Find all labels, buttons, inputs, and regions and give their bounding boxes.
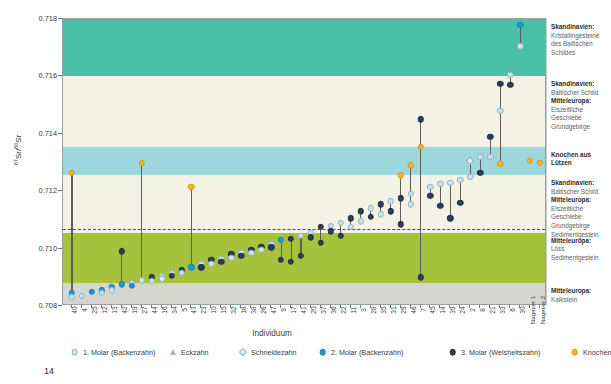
data-point	[497, 80, 503, 86]
data-point	[447, 215, 453, 221]
data-point	[178, 270, 184, 276]
y-tick-label: 0.718	[39, 14, 58, 23]
legend-divider	[546, 18, 547, 305]
connector-stem	[121, 251, 122, 284]
data-point	[298, 253, 304, 259]
legend-label: Schneidezahn	[251, 348, 297, 357]
x-axis-title: Individuum	[252, 329, 292, 338]
x-tick-label: 46	[410, 306, 417, 313]
band-legend-head2: Mitteleuropa:	[551, 196, 604, 205]
connector-stem	[191, 187, 192, 267]
data-point	[537, 159, 543, 165]
data-point	[238, 253, 244, 259]
data-point	[417, 274, 423, 280]
data-point	[487, 133, 493, 139]
x-tick-label: 40	[71, 306, 78, 313]
legend-item[interactable]: Schneidezahn	[238, 345, 297, 359]
data-point	[407, 162, 413, 168]
x-tick-label: 29	[400, 306, 407, 313]
data-point	[258, 247, 264, 253]
data-point	[79, 293, 85, 299]
connector-stem	[71, 173, 72, 298]
x-tick-label: 10	[210, 306, 217, 313]
data-point	[268, 244, 274, 250]
x-tick-label: 39	[449, 306, 456, 313]
data-point	[99, 290, 105, 296]
x-tick-label: Nagetier 2	[539, 296, 546, 325]
connector-stem	[450, 183, 451, 219]
x-tick-label: 45	[429, 306, 436, 313]
connector-stem	[500, 84, 501, 164]
legend-marker-circle-dark-icon	[448, 348, 457, 357]
x-tick-label: 44	[151, 306, 158, 313]
x-tick-label: 15	[220, 306, 227, 313]
band-legend-item: Mitteleuropa:Löss Sedimentgestein	[546, 237, 604, 263]
x-tick-label: Nagetier 1	[529, 296, 536, 325]
data-point	[358, 218, 364, 224]
band-legend-body: Löss Sedimentgestein	[551, 245, 604, 262]
band-legend-head: Knochen aus Lützen	[551, 151, 604, 168]
x-tick-label: 37	[320, 306, 327, 313]
x-tick-label: 8	[479, 308, 486, 312]
x-tick-label: 27	[141, 306, 148, 313]
legend-item[interactable]: 2. Molar (Backenzahn)	[318, 345, 403, 359]
x-tick-label: 11	[350, 307, 357, 314]
connector-stem	[410, 165, 411, 204]
y-tick-label: 0.708	[39, 301, 58, 310]
data-point	[477, 169, 483, 175]
x-tick-label: 17	[290, 306, 297, 313]
data-point	[69, 169, 75, 175]
band-legend-body: Baltischer Schild	[551, 188, 604, 197]
data-point	[348, 215, 354, 221]
band-legend-item: Mitteleuropa:Kalkstein	[546, 287, 604, 304]
x-tick-label: 33	[499, 306, 506, 313]
y-tick-label: 0.716	[39, 71, 58, 80]
band-legend-head: Mitteleuropa:	[551, 237, 604, 246]
band-legend-body: Kalkstein	[551, 296, 604, 305]
data-point	[119, 281, 125, 287]
legend-label: 2. Molar (Backenzahn)	[331, 348, 403, 357]
x-tick-label: 31	[390, 306, 397, 313]
x-tick-label: 43	[190, 306, 197, 313]
data-point	[477, 154, 483, 160]
band-legend-head: Skandinavien:	[551, 23, 604, 32]
x-tick-label: 13	[111, 306, 118, 313]
data-point	[348, 224, 354, 230]
series-legend: 1. Molar (Backenzahn)EckzahnSchneidezahn…	[70, 345, 590, 361]
legend-item[interactable]: Knochen	[570, 345, 611, 359]
data-point	[497, 161, 503, 167]
x-tick-label: 26	[260, 306, 267, 313]
x-tick-label: 19	[131, 306, 138, 313]
x-tick-label: 23	[200, 306, 207, 313]
x-tick-label: 9	[280, 308, 287, 312]
x-tick-label: 2	[469, 308, 476, 312]
data-point	[129, 283, 135, 289]
data-point	[318, 240, 324, 246]
data-point	[168, 273, 174, 279]
band-legend-item: Skandinavien:Kristallingesteine des Balt…	[546, 23, 604, 57]
y-tick-label: 0.710	[39, 243, 58, 252]
legend-marker-triangle-icon	[168, 348, 177, 357]
legend-item[interactable]: 3. Molar (Weisheitszahn)	[448, 345, 540, 359]
data-point	[368, 205, 374, 211]
band-legend-head: Skandinavien:	[551, 80, 604, 89]
legend-item[interactable]: 1. Molar (Backenzahn)	[70, 345, 155, 359]
data-point	[208, 260, 214, 266]
data-point	[517, 43, 523, 49]
data-point	[507, 82, 513, 88]
x-tick-label: 35	[380, 306, 387, 313]
data-point	[417, 116, 423, 122]
band-legend-item: Skandinavien:Baltischer SchildMitteleuro…	[546, 80, 604, 131]
data-point	[507, 72, 513, 78]
data-point	[397, 172, 403, 178]
data-point	[437, 181, 443, 187]
legend-label: 1. Molar (Backenzahn)	[83, 348, 155, 357]
band-legend: Skandinavien:Kristallingesteine des Balt…	[546, 18, 604, 305]
band-legend-head: Skandinavien:	[551, 179, 604, 188]
legend-item[interactable]: Eckzahn	[168, 345, 209, 359]
legend-marker-circle-light-icon	[70, 348, 79, 357]
x-tick-label: 28	[370, 306, 377, 313]
x-tick-label: 3	[360, 308, 367, 312]
x-tick-label: 22	[340, 306, 347, 313]
data-point	[248, 250, 254, 256]
